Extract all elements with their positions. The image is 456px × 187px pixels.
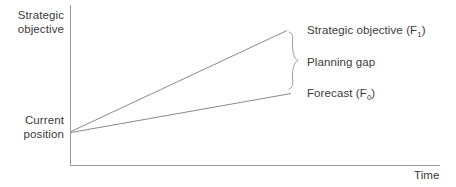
forecast-label: Forecast (F0) bbox=[307, 86, 375, 102]
current-position-label-line-1: Current bbox=[25, 114, 64, 126]
y-axis-label-line-1: Strategic bbox=[18, 9, 64, 21]
y-axis-label: Strategic objective bbox=[2, 8, 64, 36]
forecast-paren: ) bbox=[371, 87, 375, 99]
forecast-line bbox=[71, 94, 291, 133]
y-axis-label-line-2: objective bbox=[18, 23, 64, 35]
planning-gap-diagram: Strategic objective Current position Str… bbox=[0, 0, 456, 187]
current-position-label: Current position bbox=[2, 113, 64, 141]
strategic-objective-subscript: 1 bbox=[417, 30, 421, 39]
strategic-objective-label-text: Strategic objective (F bbox=[307, 24, 417, 36]
planning-gap-brace bbox=[289, 32, 298, 89]
forecast-subscript: 0 bbox=[367, 93, 371, 102]
x-axis-label: Time bbox=[414, 168, 440, 182]
planning-gap-label: Planning gap bbox=[307, 55, 375, 69]
strategic-objective-line bbox=[71, 31, 287, 132]
current-position-label-line-2: position bbox=[24, 128, 64, 140]
forecast-label-text: Forecast (F bbox=[307, 87, 367, 99]
strategic-objective-label: Strategic objective (F1) bbox=[307, 23, 426, 39]
strategic-objective-paren: ) bbox=[422, 24, 426, 36]
